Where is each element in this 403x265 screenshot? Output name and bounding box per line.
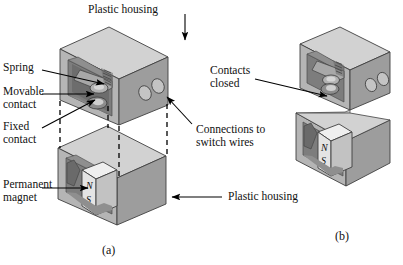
label-movable-contact: Movable contact [3,85,44,110]
caption-panel-b: (b) [335,229,349,244]
label-fixed-contact: Fixed contact [3,120,36,145]
magnet-north-label-b: N [320,142,329,153]
label-plastic-housing-bottom: Plastic housing [228,190,298,203]
magnet-north-label: N [85,180,94,191]
caption-panel-a: (a) [102,243,115,258]
leader-fixed-contact [42,100,95,128]
label-plastic-housing-top: Plastic housing [88,3,158,16]
panel-b-assembly: N S [296,27,391,186]
figure-magnetic-switch: N S [0,0,403,265]
leader-connections-to-switch-wires [167,97,192,124]
label-permanent-magnet: Permanent magnet [3,178,52,203]
label-spring: Spring [3,61,34,74]
label-contacts-closed: Contacts closed [210,64,250,89]
panel-a-lower-housing: N S [58,126,166,225]
label-connections-to-switch-wires: Connections to switch wires [196,123,265,148]
